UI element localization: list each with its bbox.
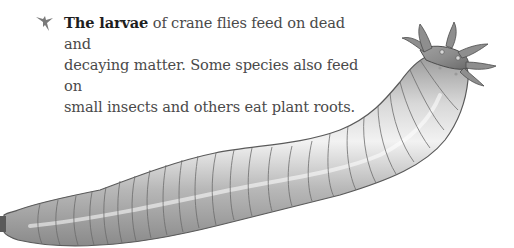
spiracle bbox=[456, 56, 460, 60]
spiracle bbox=[440, 50, 444, 54]
crane-fly-larva-illustration bbox=[0, 0, 514, 248]
larva-tail bbox=[0, 216, 6, 232]
